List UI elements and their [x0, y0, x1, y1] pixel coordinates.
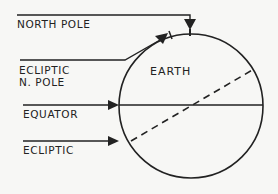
label-north-pole: NORTH POLE	[17, 18, 90, 30]
north-pole-arrowhead-icon	[184, 19, 196, 30]
label-ecliptic-pole-line1: ECLIPTIC	[19, 64, 70, 76]
label-earth: EARTH	[150, 66, 191, 78]
earth-circle	[119, 34, 263, 178]
equator-arrowhead-icon	[108, 100, 119, 110]
label-equator: EQUATOR	[23, 108, 78, 120]
label-ecliptic: ECLIPTIC	[23, 144, 74, 156]
label-ecliptic-pole-line2: N. POLE	[19, 76, 65, 88]
ecliptic-arrowhead-icon	[108, 136, 119, 146]
earth-diagram: NORTH POLE ECLIPTIC N. POLE EQUATOR ECLI…	[0, 0, 278, 194]
